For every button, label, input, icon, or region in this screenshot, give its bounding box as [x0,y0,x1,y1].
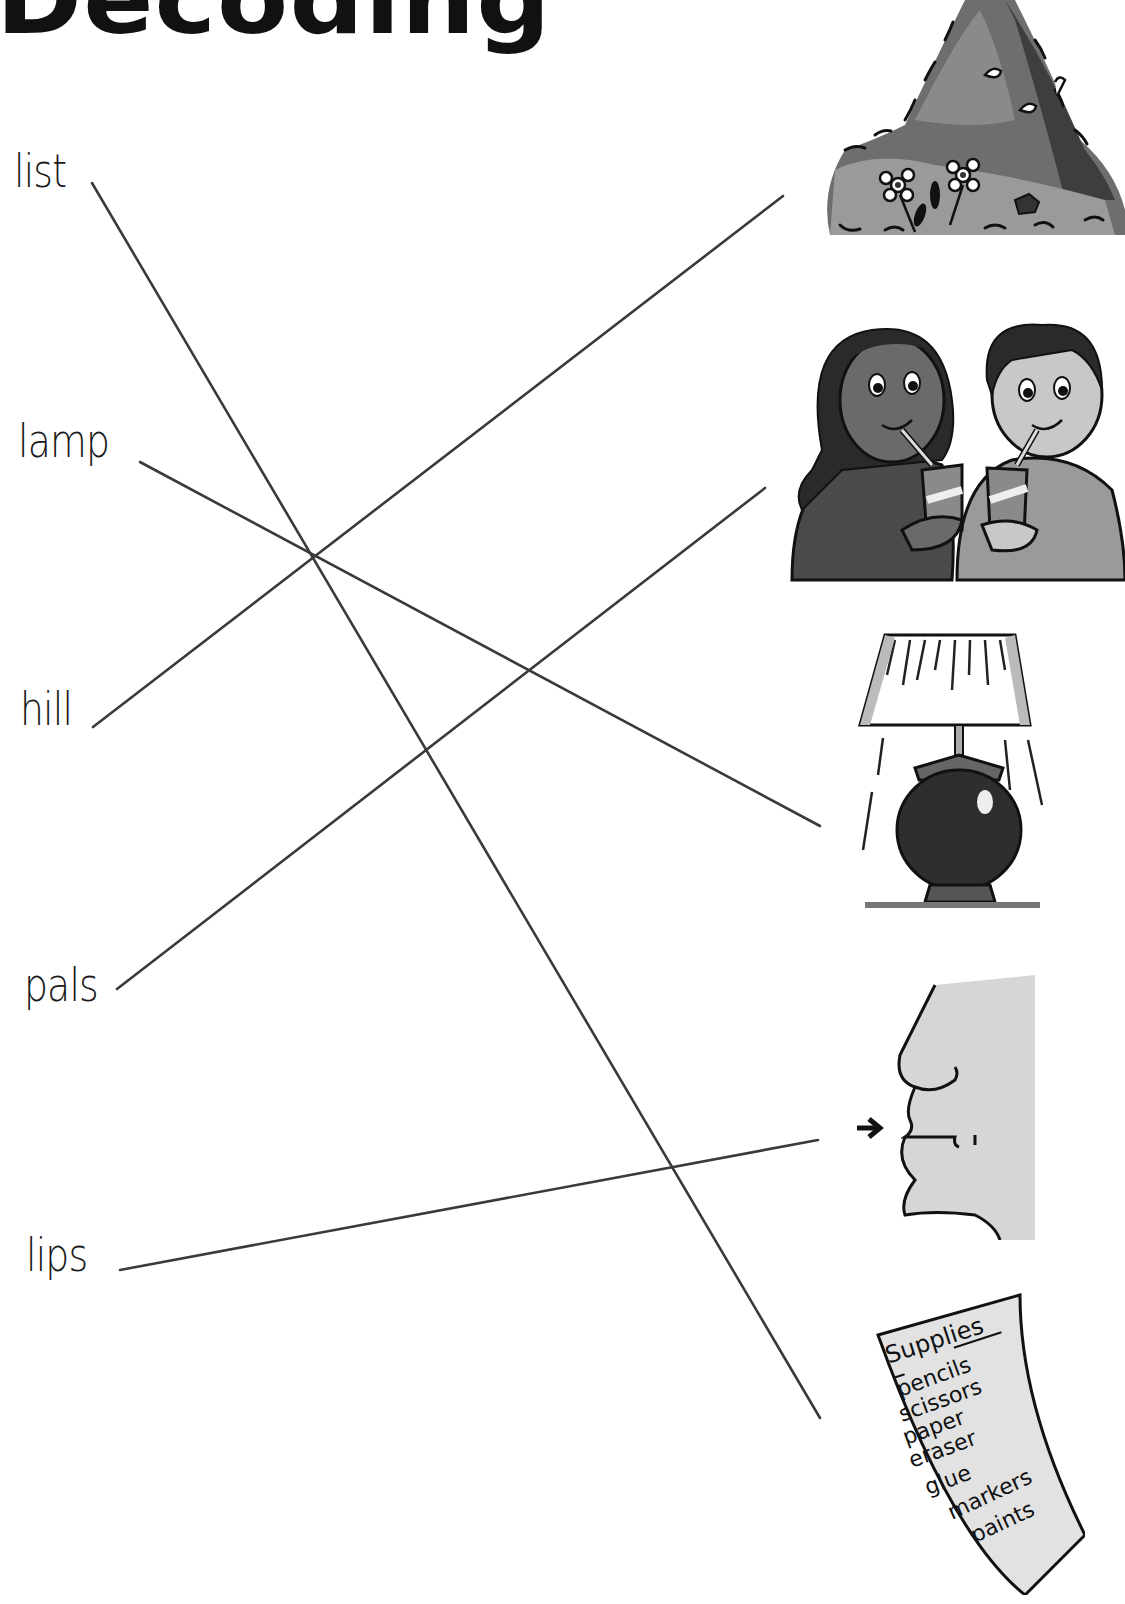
picture-pals[interactable] [782,300,1125,600]
match-line-lamp[interactable] [140,462,820,826]
lips-illustration-icon [855,975,1035,1240]
pals-illustration-icon [782,300,1125,600]
match-line-list[interactable] [92,183,820,1418]
hill-illustration-icon [815,0,1125,250]
picture-list[interactable]: Supplies pencils scissors paper eraser g… [870,1285,1085,1595]
picture-lips[interactable] [855,975,1035,1240]
lamp-illustration-icon [845,630,1045,915]
supplies-list-illustration-icon: Supplies pencils scissors paper eraser g… [870,1285,1085,1595]
picture-hill[interactable] [815,0,1125,250]
match-line-hill[interactable] [93,196,783,727]
match-line-lips[interactable] [120,1140,818,1270]
match-line-pals[interactable] [117,488,765,989]
picture-lamp[interactable] [845,630,1045,915]
